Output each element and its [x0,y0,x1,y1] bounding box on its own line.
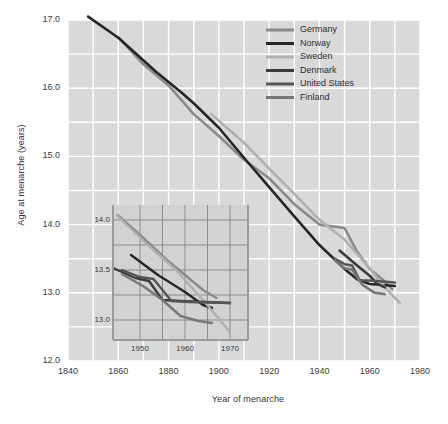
y-tick-label: 16.0 [26,82,60,92]
chart-figure: Age at menarche (years) Year of menarche… [0,0,448,424]
x-tick-label: 1980 [400,366,440,376]
y-tick-label: 13.0 [26,287,60,297]
y-tick-label: 12.0 [26,355,60,365]
x-tick-label: 1880 [149,366,189,376]
legend-label-united-states: United States [300,78,354,88]
x-tick-label: 1900 [199,366,239,376]
inset-x-tick-label: 1970 [212,344,248,353]
inset-x-tick-label: 1960 [167,344,203,353]
inset-y-tick-label: 13.5 [84,265,110,274]
legend-label-sweden: Sweden [300,51,333,61]
inset-x-tick-label: 1950 [122,344,158,353]
inset-y-tick-label: 13.0 [84,315,110,324]
y-tick-label: 14.0 [26,219,60,229]
y-axis-title: Age at menarche (years) [16,110,26,240]
x-tick-label: 1960 [350,366,390,376]
inset-y-tick-label: 14.0 [84,215,110,224]
x-tick-label: 1840 [48,366,88,376]
legend-label-denmark: Denmark [300,65,337,75]
chart-canvas [0,0,448,424]
y-tick-label: 17.0 [26,14,60,24]
x-tick-label: 1940 [299,366,339,376]
legend-label-germany: Germany [300,24,337,34]
legend-label-norway: Norway [300,38,331,48]
x-tick-label: 1860 [98,366,138,376]
x-axis-title: Year of menarche [168,394,328,404]
legend-label-finland: Finland [300,92,330,102]
y-tick-label: 15.0 [26,150,60,160]
x-tick-label: 1920 [249,366,289,376]
